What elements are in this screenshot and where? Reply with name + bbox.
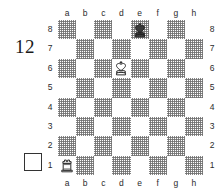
square-b3[interactable]: [76, 117, 94, 136]
square-g1[interactable]: [167, 156, 185, 175]
rank-label-right-7: 7: [206, 39, 218, 58]
file-label-bottom-e: e: [131, 178, 149, 188]
square-e1[interactable]: [131, 156, 149, 175]
square-e4[interactable]: [131, 98, 149, 117]
rank-label-left-7: 7: [44, 39, 56, 58]
square-h1[interactable]: [185, 156, 203, 175]
square-c1[interactable]: [94, 156, 112, 175]
square-g7[interactable]: [167, 39, 185, 58]
file-label-top-c: c: [94, 8, 112, 18]
square-d6[interactable]: [112, 59, 130, 78]
square-h8[interactable]: [185, 20, 203, 39]
square-g5[interactable]: [167, 78, 185, 97]
rank-label-left-3: 3: [44, 117, 56, 136]
square-f7[interactable]: [149, 39, 167, 58]
square-f6[interactable]: [149, 59, 167, 78]
rank-label-right-3: 3: [206, 117, 218, 136]
square-d3[interactable]: [112, 117, 130, 136]
square-c7[interactable]: [94, 39, 112, 58]
board-squares: [58, 20, 203, 175]
square-f1[interactable]: [149, 156, 167, 175]
rank-label-right-8: 8: [206, 20, 218, 39]
square-a5[interactable]: [58, 78, 76, 97]
file-label-bottom-h: h: [185, 178, 203, 188]
square-f8[interactable]: [149, 20, 167, 39]
square-a7[interactable]: [58, 39, 76, 58]
square-b2[interactable]: [76, 136, 94, 155]
rank-label-right-4: 4: [206, 98, 218, 117]
square-h3[interactable]: [185, 117, 203, 136]
rank-label-left-6: 6: [44, 59, 56, 78]
rank-label-left-4: 4: [44, 98, 56, 117]
square-a8[interactable]: [58, 20, 76, 39]
square-b7[interactable]: [76, 39, 94, 58]
square-h4[interactable]: [185, 98, 203, 117]
square-a2[interactable]: [58, 136, 76, 155]
square-b4[interactable]: [76, 98, 94, 117]
rank-label-left-1: 1: [44, 156, 56, 175]
square-e8[interactable]: [131, 20, 149, 39]
square-c2[interactable]: [94, 136, 112, 155]
rank-label-left-5: 5: [44, 78, 56, 97]
square-a1[interactable]: [58, 156, 76, 175]
black-king-icon[interactable]: [131, 21, 148, 38]
rank-label-left-8: 8: [44, 20, 56, 39]
rank-label-right-1: 1: [206, 156, 218, 175]
rank-label-right-6: 6: [206, 59, 218, 78]
square-g6[interactable]: [167, 59, 185, 78]
square-f2[interactable]: [149, 136, 167, 155]
square-d5[interactable]: [112, 78, 130, 97]
file-label-top-b: b: [76, 8, 94, 18]
square-e6[interactable]: [131, 59, 149, 78]
chess-board[interactable]: abcdefgh abcdefgh 87654321 87654321: [58, 20, 203, 175]
square-g8[interactable]: [167, 20, 185, 39]
square-c5[interactable]: [94, 78, 112, 97]
square-b6[interactable]: [76, 59, 94, 78]
file-label-bottom-d: d: [112, 178, 130, 188]
square-g4[interactable]: [167, 98, 185, 117]
square-g3[interactable]: [167, 117, 185, 136]
rank-label-left-2: 2: [44, 136, 56, 155]
square-b8[interactable]: [76, 20, 94, 39]
square-a3[interactable]: [58, 117, 76, 136]
square-e3[interactable]: [131, 117, 149, 136]
square-c4[interactable]: [94, 98, 112, 117]
square-h6[interactable]: [185, 59, 203, 78]
square-d1[interactable]: [112, 156, 130, 175]
square-b1[interactable]: [76, 156, 94, 175]
file-label-top-f: f: [149, 8, 167, 18]
file-label-bottom-b: b: [76, 178, 94, 188]
square-d7[interactable]: [112, 39, 130, 58]
square-c8[interactable]: [94, 20, 112, 39]
square-f5[interactable]: [149, 78, 167, 97]
square-a6[interactable]: [58, 59, 76, 78]
problem-number: 12: [8, 36, 42, 58]
white-rook-icon[interactable]: [59, 157, 76, 174]
square-d2[interactable]: [112, 136, 130, 155]
file-label-bottom-g: g: [167, 178, 185, 188]
square-a4[interactable]: [58, 98, 76, 117]
square-h7[interactable]: [185, 39, 203, 58]
file-label-top-g: g: [167, 8, 185, 18]
square-h5[interactable]: [185, 78, 203, 97]
square-c3[interactable]: [94, 117, 112, 136]
file-label-top-e: e: [131, 8, 149, 18]
file-label-bottom-f: f: [149, 178, 167, 188]
file-label-top-a: a: [58, 8, 76, 18]
side-to-move-indicator: [24, 153, 42, 171]
square-e2[interactable]: [131, 136, 149, 155]
square-e7[interactable]: [131, 39, 149, 58]
square-g2[interactable]: [167, 136, 185, 155]
file-label-top-h: h: [185, 8, 203, 18]
square-e5[interactable]: [131, 78, 149, 97]
square-f4[interactable]: [149, 98, 167, 117]
file-label-bottom-a: a: [58, 178, 76, 188]
rank-label-right-5: 5: [206, 78, 218, 97]
square-b5[interactable]: [76, 78, 94, 97]
square-c6[interactable]: [94, 59, 112, 78]
white-king-icon[interactable]: [113, 60, 130, 77]
square-h2[interactable]: [185, 136, 203, 155]
square-d8[interactable]: [112, 20, 130, 39]
square-d4[interactable]: [112, 98, 130, 117]
square-f3[interactable]: [149, 117, 167, 136]
